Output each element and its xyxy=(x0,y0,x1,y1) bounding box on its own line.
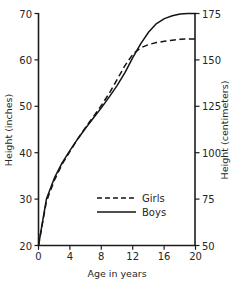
x-tick-label-8: 8 xyxy=(98,251,104,262)
left-tick-label-30: 30 xyxy=(19,194,32,205)
x-tick-label-12: 12 xyxy=(126,251,139,262)
right-axis-title: Height (centimeters) xyxy=(219,81,230,180)
boys-curve xyxy=(39,14,196,246)
chart-canvas: 70 60 50 40 30 20 175 150 125 100 75 50 xyxy=(0,0,236,284)
bottom-axis-title: Age in years xyxy=(87,268,146,279)
right-tick-label-150: 150 xyxy=(202,55,221,66)
left-tick-label-40: 40 xyxy=(19,148,32,159)
axis-lines xyxy=(38,13,196,246)
x-tick-label-20: 20 xyxy=(189,251,202,262)
left-tick-label-20: 20 xyxy=(19,241,32,252)
right-tick-label-75: 75 xyxy=(202,194,215,205)
growth-chart: 70 60 50 40 30 20 175 150 125 100 75 50 xyxy=(0,0,236,284)
legend-label-boys: Boys xyxy=(142,207,166,218)
left-tick-label-60: 60 xyxy=(19,55,32,66)
left-tick-label-50: 50 xyxy=(19,101,32,112)
x-tick-label-16: 16 xyxy=(158,251,171,262)
legend: Girls Boys xyxy=(97,193,166,218)
x-tick-label-4: 4 xyxy=(67,251,73,262)
legend-label-girls: Girls xyxy=(142,193,165,204)
right-tick-label-50: 50 xyxy=(202,241,215,252)
x-tick-label-0: 0 xyxy=(35,251,41,262)
girls-curve xyxy=(39,39,196,246)
left-tick-label-70: 70 xyxy=(19,9,32,20)
right-tick-label-175: 175 xyxy=(202,9,221,20)
left-axis-title: Height (inches) xyxy=(3,94,14,167)
